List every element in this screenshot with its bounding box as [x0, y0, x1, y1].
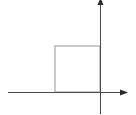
y-axis-arrow-icon [98, 0, 104, 5]
x-axis-arrow-icon [120, 90, 128, 96]
diagram-canvas [0, 0, 136, 115]
square [55, 46, 100, 92]
